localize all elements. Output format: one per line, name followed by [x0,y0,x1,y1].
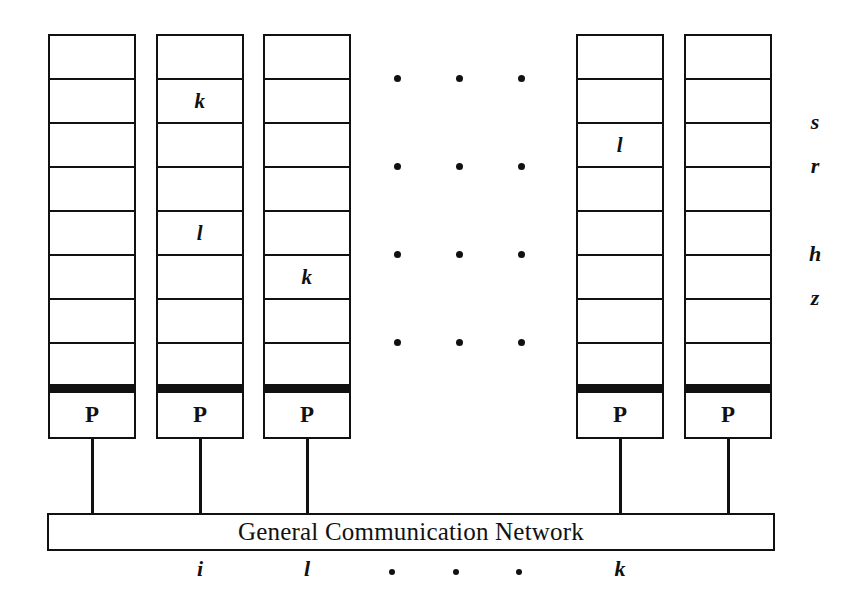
memory-cell [263,298,351,342]
memory-cell: l [576,122,664,166]
memory-cell [576,78,664,122]
memory-cell [263,342,351,386]
connector-stem [619,439,622,513]
memory-cell [576,342,664,386]
memory-cell [263,122,351,166]
memory-processor-divider [684,386,772,393]
memory-cell [576,254,664,298]
memory-column-1: P [48,34,136,439]
processor-cell: P [684,393,772,439]
ellipsis-dot [394,163,401,170]
connector-stem [306,439,309,513]
memory-cell [684,298,772,342]
memory-cell [263,34,351,78]
ellipsis-dot [518,339,525,346]
ellipsis-dot [518,75,525,82]
bottom-axis-ellipsis-dot [516,569,522,575]
memory-cell [684,254,772,298]
memory-cell: l [156,210,244,254]
memory-cell [263,166,351,210]
row-label-z: z [800,287,830,309]
row-label-h: h [800,243,830,265]
memory-cell [156,342,244,386]
memory-column-3: kP [263,34,351,439]
memory-cell [684,122,772,166]
ellipsis-dot [394,251,401,258]
memory-cell [684,34,772,78]
memory-column-5: P [684,34,772,439]
memory-cell [576,210,664,254]
processor-memory-network-diagram: PklPkPlPP General Communication Network … [0,0,866,614]
memory-cell [48,34,136,78]
bottom-axis-ellipsis-dot [389,569,395,575]
memory-cell: k [156,78,244,122]
processor-cell: P [156,393,244,439]
ellipsis-dot [518,163,525,170]
memory-cell [156,166,244,210]
connector-stem [199,439,202,513]
memory-cell [576,34,664,78]
ellipsis-dot [456,339,463,346]
memory-cell [156,254,244,298]
ellipsis-dot [456,75,463,82]
memory-processor-divider [576,386,664,393]
memory-cell [48,298,136,342]
memory-cell [684,166,772,210]
row-label-r: r [800,155,830,177]
memory-cell [48,166,136,210]
bottom-axis-ellipsis-dot [453,569,459,575]
connector-stem [727,439,730,513]
memory-cell [684,342,772,386]
row-label-s: s [800,111,830,133]
memory-cell [48,210,136,254]
bottom-axis-label-l: l [292,558,322,580]
ellipsis-dot [394,339,401,346]
memory-cell [156,298,244,342]
memory-processor-divider [263,386,351,393]
ellipsis-dot [456,163,463,170]
network-bar-label: General Communication Network [238,518,584,546]
memory-processor-divider [48,386,136,393]
bottom-axis-label-i: i [185,558,215,580]
general-communication-network-bar: General Communication Network [47,513,775,551]
memory-processor-divider [156,386,244,393]
ellipsis-dot [456,251,463,258]
memory-cell [684,78,772,122]
ellipsis-dot [394,75,401,82]
memory-column-4: lP [576,34,664,439]
memory-cell [48,122,136,166]
processor-cell: P [263,393,351,439]
memory-column-2: klP [156,34,244,439]
connector-stem [91,439,94,513]
memory-cell [576,298,664,342]
memory-cell [48,342,136,386]
processor-cell: P [576,393,664,439]
memory-cell [263,210,351,254]
memory-cell [48,78,136,122]
processor-cell: P [48,393,136,439]
memory-cell [156,34,244,78]
memory-cell [263,78,351,122]
memory-cell [156,122,244,166]
memory-cell [684,210,772,254]
memory-cell [576,166,664,210]
bottom-axis-label-k: k [605,558,635,580]
memory-cell [48,254,136,298]
memory-cell: k [263,254,351,298]
ellipsis-dot [518,251,525,258]
